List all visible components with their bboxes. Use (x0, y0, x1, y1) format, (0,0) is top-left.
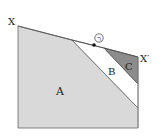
marker-label: ㄱ (96, 35, 102, 42)
cross-section-diagram: ㄱ X X′ A B C (0, 0, 159, 139)
marker-dot (92, 43, 96, 47)
label-x: X (8, 16, 16, 27)
label-a: A (55, 85, 65, 98)
label-c: C (125, 61, 133, 72)
label-b: B (108, 66, 115, 77)
label-x-prime: X′ (140, 53, 150, 64)
